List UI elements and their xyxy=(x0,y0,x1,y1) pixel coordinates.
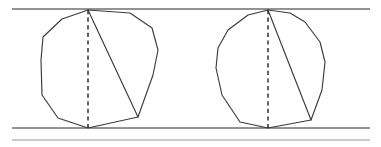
figure-canvas xyxy=(0,0,381,147)
rolling-polygons-diagram xyxy=(0,0,381,147)
